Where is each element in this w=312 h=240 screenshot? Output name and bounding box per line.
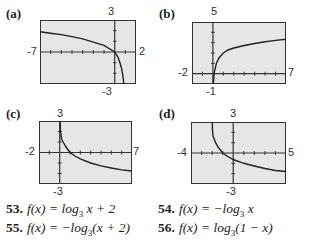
graph-d-label: (d) — [159, 106, 175, 122]
exercise-53: 53.f(x) = log3 x + 2 — [6, 201, 115, 219]
graph-c — [39, 121, 132, 184]
graph-c-xmax: 7 — [133, 145, 139, 157]
graph-a-xmin: -7 — [27, 45, 37, 57]
exercise-54: 54.f(x) = −log3 x — [158, 201, 254, 219]
exercise-56-post: (1 − x) — [235, 220, 273, 235]
graph-b-ymin: -1 — [206, 85, 216, 97]
exercise-53-pre: f(x) = log — [27, 201, 79, 216]
exercise-55-post: (x + 2) — [92, 220, 130, 235]
graph-b-xmax: 7 — [288, 66, 294, 78]
graph-c-xmin: -2 — [25, 145, 35, 157]
graph-d — [191, 122, 286, 184]
exercise-54-post: x — [244, 201, 253, 216]
graph-d-ymin: -3 — [226, 185, 236, 197]
graph-c-ymin: -3 — [53, 185, 63, 197]
exercise-55-number: 55. — [6, 220, 23, 235]
exercise-56: 56.f(x) = log3(1 − x) — [158, 220, 273, 238]
graph-b-ymax: 5 — [211, 5, 217, 17]
exercise-55: 55.f(x) = −log3(x + 2) — [6, 220, 130, 238]
graph-b — [192, 22, 286, 84]
graph-a-label: (a) — [6, 6, 21, 22]
exercise-56-number: 56. — [158, 220, 175, 235]
exercise-53-number: 53. — [6, 201, 23, 216]
exercise-54-number: 54. — [158, 201, 175, 216]
graph-c-label: (c) — [6, 106, 20, 122]
exercise-55-pre: f(x) = −log — [27, 220, 88, 235]
graph-b-label: (b) — [159, 6, 175, 22]
graph-c-ymax: 3 — [57, 107, 63, 119]
exercise-54-pre: f(x) = −log — [179, 201, 240, 216]
graph-d-xmax: 5 — [288, 146, 294, 158]
graph-d-ymax: 3 — [230, 107, 236, 119]
graph-a-xmax: 2 — [139, 45, 145, 57]
graph-b-xmin: -2 — [178, 66, 188, 78]
exercise-53-post: x + 2 — [83, 201, 115, 216]
graph-a-ymin: -3 — [102, 85, 112, 97]
graph-a — [40, 20, 136, 84]
graph-a-ymax: 3 — [108, 5, 114, 17]
exercise-56-pre: f(x) = log — [179, 220, 231, 235]
graph-d-xmin: -4 — [177, 146, 187, 158]
